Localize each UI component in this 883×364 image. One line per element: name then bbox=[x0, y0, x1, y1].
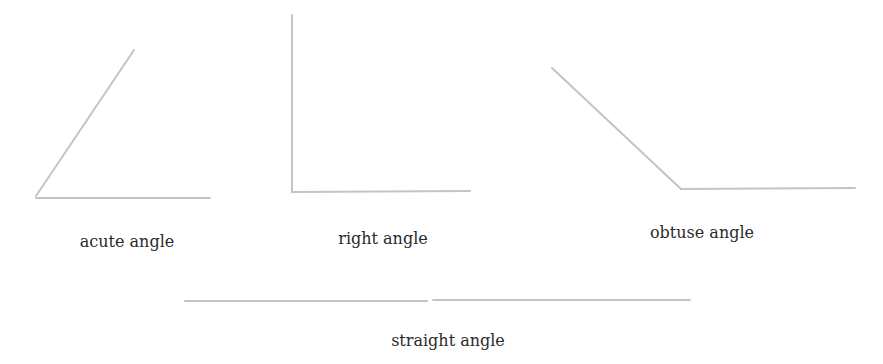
acute-angle-ray-1 bbox=[36, 50, 134, 196]
right-angle-label: right angle bbox=[338, 229, 428, 248]
acute-angle-label: acute angle bbox=[80, 232, 174, 251]
obtuse-angle-label: obtuse angle bbox=[650, 223, 754, 242]
obtuse-angle-ray-2 bbox=[681, 188, 855, 189]
straight-angle-label: straight angle bbox=[391, 331, 505, 350]
obtuse-angle-ray-1 bbox=[552, 68, 681, 189]
angle-diagram bbox=[0, 0, 883, 364]
right-angle-ray-2 bbox=[292, 191, 470, 192]
